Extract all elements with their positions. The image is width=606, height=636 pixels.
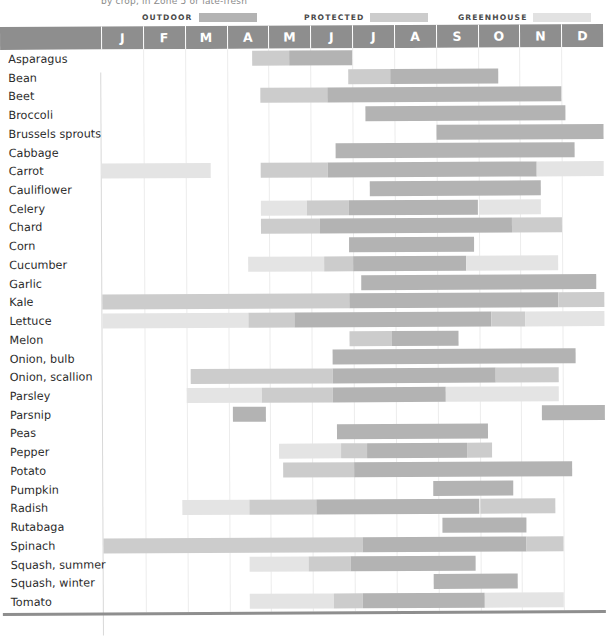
bar-segment-greenhouse (446, 386, 559, 402)
bar-segment-protected (558, 292, 604, 307)
bar-segment-protected (341, 443, 366, 458)
crop-label: Pepper (10, 443, 96, 462)
crop-label: Lettuce (9, 312, 95, 331)
month-header-8: S (436, 25, 478, 48)
bar-segment-outdoor (365, 105, 566, 121)
bar-segment-outdoor (442, 517, 526, 532)
bar-segment-protected (334, 593, 363, 608)
crop-label: Broccoli (8, 106, 94, 125)
bar-segment-protected (191, 369, 333, 385)
legend-swatch-greenhouse (533, 13, 591, 22)
bar-segment-greenhouse (484, 592, 564, 607)
crop-label: Chard (9, 218, 95, 237)
crop-label: Onion, scallion (10, 368, 96, 387)
bar-segment-protected (324, 256, 353, 271)
bar-segment-greenhouse (279, 443, 342, 458)
bar-segment-outdoor (333, 368, 496, 384)
bar-segment-protected (252, 50, 290, 65)
legend-swatch-protected (370, 13, 428, 22)
bar-segment-outdoor (319, 218, 511, 234)
crop-label: Tomato (11, 593, 97, 612)
crop-label: Squash, winter (11, 574, 97, 593)
month-header-3: A (226, 26, 268, 49)
bar-segment-outdoor (390, 68, 499, 84)
bar-segment-greenhouse (250, 593, 334, 608)
crop-label: Beet (8, 87, 94, 106)
bar-segment-protected (249, 313, 295, 328)
month-header-5: J (310, 25, 352, 48)
bar-segment-protected (103, 537, 362, 553)
bar-segment-protected (349, 331, 391, 346)
bar-segment-outdoor (367, 443, 467, 458)
legend-label-outdoor: OUTDOOR (142, 13, 193, 22)
legend-item-protected: PROTECTED (304, 11, 428, 24)
bar-segment-protected (250, 500, 317, 515)
bar-segment-outdoor (354, 461, 572, 477)
crop-label: Rutabaga (10, 518, 96, 537)
bar-segment-outdoor (295, 312, 492, 328)
month-header-1: F (143, 26, 185, 49)
bar-segment-outdoor (349, 199, 479, 215)
crop-label: Parsley (10, 387, 96, 406)
crop-label: Pumpkin (10, 480, 96, 499)
bar-segment-protected (526, 536, 564, 551)
month-header-row: JFMAMJJASOND (0, 24, 603, 50)
crop-label: Carrot (9, 162, 95, 181)
crop-label: Radish (10, 499, 96, 518)
bar-segment-greenhouse (525, 311, 605, 326)
month-header-11: D (561, 24, 603, 47)
bar-segment-outdoor (434, 480, 514, 495)
bar-segment-protected (102, 294, 349, 310)
chart-row[interactable]: Tomato (3, 590, 606, 612)
crop-label: Melon (9, 330, 95, 349)
bar-segment-protected (261, 163, 328, 178)
bar-segment-outdoor (317, 499, 480, 515)
bar-segment-greenhouse (102, 163, 211, 179)
bar-segment-protected (480, 499, 555, 514)
bar-segment-protected (491, 311, 525, 326)
bar-segment-outdoor (328, 162, 537, 178)
crop-label: Celery (9, 199, 95, 218)
crop-label: Cucumber (9, 256, 95, 275)
month-header-7: A (394, 25, 436, 48)
crop-label: Garlic (9, 274, 95, 293)
month-header-2: M (185, 26, 227, 49)
bar-segment-outdoor (391, 330, 458, 345)
crop-label: Asparagus (8, 50, 94, 69)
availability-chart: JFMAMJJASOND AsparagusBeanBeetBroccoliBr… (0, 24, 606, 622)
crop-label: Brussels sprouts (8, 124, 94, 143)
chart-caption: by crop, in Zone 5 or late-fresh (101, 0, 431, 8)
crop-label: Bean (8, 68, 94, 87)
bar-segment-outdoor (434, 574, 518, 589)
crop-label: Peas (10, 424, 96, 443)
bar-segment-greenhouse (478, 199, 541, 214)
crop-label: Kale (9, 293, 95, 312)
legend-label-greenhouse: GREENHOUSE (458, 13, 527, 22)
bar-segment-outdoor (369, 180, 541, 196)
bar-segment-outdoor (336, 143, 575, 159)
bar-segment-protected (262, 387, 333, 402)
crop-label: Potato (10, 462, 96, 481)
bar-segment-greenhouse (250, 556, 309, 571)
month-header-4: M (268, 25, 310, 48)
bar-segment-outdoor (363, 536, 526, 552)
chart-plot-area: AsparagusBeanBeetBroccoliBrussels sprout… (0, 47, 606, 613)
bar-segment-outdoor (327, 87, 561, 103)
month-header-0: J (101, 26, 143, 49)
bar-segment-protected (261, 219, 320, 234)
month-header-10: N (519, 24, 561, 47)
crop-label: Parsnip (10, 405, 96, 424)
legend-item-outdoor: OUTDOOR (142, 11, 257, 24)
bar-segment-protected (260, 88, 327, 103)
bar-segment-outdoor (542, 405, 605, 420)
bar-segment-protected (348, 69, 390, 84)
bar-segment-outdoor (233, 406, 267, 421)
bar-segment-outdoor (353, 256, 466, 272)
bar-segment-greenhouse (537, 161, 604, 176)
bar-segment-greenhouse (102, 313, 248, 329)
bar-segment-outdoor (362, 274, 596, 290)
month-header-9: O (477, 24, 519, 47)
bar-segment-greenhouse (249, 256, 324, 271)
bar-segment-outdoor (349, 237, 475, 253)
bar-segment-outdoor (436, 124, 603, 140)
